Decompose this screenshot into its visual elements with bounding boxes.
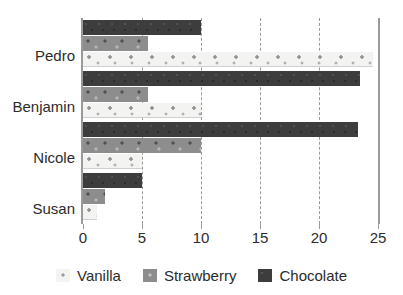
bar-pedro-vanilla[interactable] xyxy=(83,52,373,67)
legend-label-chocolate: Chocolate xyxy=(279,267,347,284)
category-label-susan: Susan xyxy=(0,200,75,217)
bar-group-susan xyxy=(83,173,378,221)
bar-nicole-vanilla[interactable] xyxy=(83,154,142,169)
bar-benjamin-vanilla[interactable] xyxy=(83,103,201,118)
bar-susan-vanilla[interactable] xyxy=(83,205,97,220)
bar-nicole-strawberry[interactable] xyxy=(83,138,201,153)
bar-group-pedro xyxy=(83,20,378,68)
bar-susan-strawberry[interactable] xyxy=(83,189,105,204)
bar-benjamin-chocolate[interactable] xyxy=(83,71,360,86)
chocolate-swatch-icon xyxy=(258,269,272,282)
legend-item-vanilla[interactable]: Vanilla xyxy=(56,267,121,284)
x-tick-label-15: 15 xyxy=(252,229,269,246)
legend-item-strawberry[interactable]: Strawberry xyxy=(143,267,237,284)
category-label-nicole: Nicole xyxy=(0,149,75,166)
bar-group-nicole xyxy=(83,122,378,170)
bar-benjamin-strawberry[interactable] xyxy=(83,87,148,102)
x-tick-label-25: 25 xyxy=(370,229,387,246)
category-label-benjamin: Benjamin xyxy=(0,98,75,115)
legend-label-strawberry: Strawberry xyxy=(164,267,237,284)
x-tick-label-10: 10 xyxy=(193,229,210,246)
right-axis-line xyxy=(378,18,380,224)
bar-pedro-chocolate[interactable] xyxy=(83,20,201,35)
legend-label-vanilla: Vanilla xyxy=(77,267,121,284)
x-tick-label-20: 20 xyxy=(311,229,328,246)
category-label-pedro: Pedro xyxy=(0,47,75,64)
bar-susan-chocolate[interactable] xyxy=(83,173,142,188)
bar-nicole-chocolate[interactable] xyxy=(83,122,358,137)
legend-item-chocolate[interactable]: Chocolate xyxy=(258,267,347,284)
x-axis: 0 5 10 15 20 25 xyxy=(83,224,378,252)
x-tick-label-0: 0 xyxy=(79,229,87,246)
bar-chart: Pedro Benjamin Nicole Susan xyxy=(0,0,403,295)
strawberry-swatch-icon xyxy=(143,269,157,282)
bar-pedro-strawberry[interactable] xyxy=(83,36,148,51)
chart-legend: Vanilla Strawberry Chocolate xyxy=(0,262,403,288)
x-tick-label-5: 5 xyxy=(138,229,146,246)
vanilla-swatch-icon xyxy=(56,269,70,282)
category-axis: Pedro Benjamin Nicole Susan xyxy=(0,18,83,224)
plot-area xyxy=(83,18,378,224)
bar-group-benjamin xyxy=(83,71,378,119)
